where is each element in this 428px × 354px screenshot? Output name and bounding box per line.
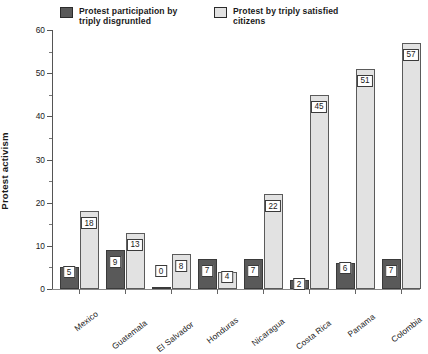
bar-value-label: 51: [357, 75, 373, 87]
x-tick-mexico: [79, 289, 80, 294]
y-minor-tick-25: [49, 181, 52, 182]
bar-value-label: 18: [81, 217, 97, 229]
y-minor-tick-45: [49, 95, 52, 96]
x-tick-el-salvador: [171, 289, 172, 294]
bar-value-label: 5: [63, 266, 75, 278]
bar-value-label: 45: [311, 101, 327, 113]
category-label-panama: Panama: [346, 312, 377, 339]
x-tick-panama: [355, 289, 356, 294]
legend-swatch-dark: [60, 7, 73, 18]
category-label-colombia: Colombia: [389, 314, 424, 344]
y-tick-0: [47, 289, 52, 290]
legend-swatch-light: [214, 7, 227, 18]
bar-value-label: 4: [221, 271, 233, 283]
y-axis-line: [52, 30, 53, 289]
legend-label-satisfied: Protest by triply satisfied citizens: [233, 6, 338, 27]
category-label-nicaragua: Nicaragua: [249, 316, 286, 348]
y-minor-tick-35: [49, 138, 52, 139]
bar-value-label: 8: [175, 260, 187, 272]
y-tick-50: [47, 73, 52, 74]
category-label-el-salvador: El Salvador: [155, 319, 196, 354]
y-tick-40: [47, 116, 52, 117]
bar-el-salvador-series0: [152, 287, 171, 289]
x-axis-line: [52, 289, 420, 290]
bar-value-label: 0: [155, 265, 167, 277]
y-tick-label-50: 50: [36, 68, 45, 78]
y-tick-20: [47, 203, 52, 204]
bar-value-label: 9: [109, 256, 121, 268]
y-tick-10: [47, 246, 52, 247]
x-tick-colombia: [401, 289, 402, 294]
y-axis-title: Protest activism: [0, 132, 10, 209]
bar-value-label: 6: [339, 262, 351, 274]
x-tick-honduras: [217, 289, 218, 294]
x-tick-guatemala: [125, 289, 126, 294]
bar-colombia-series1: [402, 43, 421, 289]
bar-value-label: 7: [385, 265, 397, 277]
y-tick-label-10: 10: [36, 241, 45, 251]
x-tick-costa-rica: [309, 289, 310, 294]
y-minor-tick-15: [49, 224, 52, 225]
bar-value-label: 13: [127, 239, 143, 251]
legend-entry-satisfied: Protest by triply satisfied citizens: [214, 6, 338, 27]
bar-value-label: 22: [265, 200, 281, 212]
category-label-guatemala: Guatemala: [110, 318, 149, 352]
category-label-mexico: Mexico: [72, 309, 100, 334]
y-tick-30: [47, 160, 52, 161]
y-tick-label-30: 30: [36, 155, 45, 165]
bar-costa-rica-series1: [310, 95, 329, 289]
category-label-costa-rica: Costa Rica: [294, 318, 333, 352]
bar-panama-series1: [356, 69, 375, 289]
plot-area: 0102030405060 5189130874722245651757 Mex…: [52, 30, 420, 289]
y-tick-label-20: 20: [36, 198, 45, 208]
bar-value-label: 7: [201, 265, 213, 277]
legend-entry-disgruntled: Protest participation by triply disgrunt…: [60, 6, 177, 27]
y-minor-tick-55: [49, 52, 52, 53]
y-tick-label-60: 60: [36, 25, 45, 35]
x-tick-nicaragua: [263, 289, 264, 294]
bar-value-label: 2: [293, 278, 305, 290]
y-minor-tick-5: [49, 267, 52, 268]
y-tick-60: [47, 30, 52, 31]
bar-value-label: 7: [247, 265, 259, 277]
bar-value-label: 57: [403, 49, 419, 61]
y-tick-label-40: 40: [36, 111, 45, 121]
y-tick-label-0: 0: [40, 284, 45, 294]
category-label-honduras: Honduras: [205, 315, 240, 346]
legend-label-disgruntled: Protest participation by triply disgrunt…: [79, 6, 177, 27]
